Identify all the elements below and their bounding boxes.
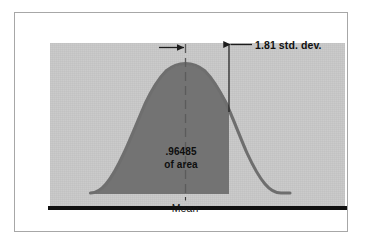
std-dev-annotation-label: 1.81 std. dev. xyxy=(255,39,322,51)
mean-axis-label: Mean xyxy=(162,202,208,214)
area-unit-label: of area xyxy=(149,159,213,172)
figure-root: 1.81 std. dev. .96485 of area Mean xyxy=(0,0,366,242)
area-value-label: .96485 xyxy=(149,146,213,159)
area-annotation-block: .96485 of area xyxy=(149,146,213,171)
